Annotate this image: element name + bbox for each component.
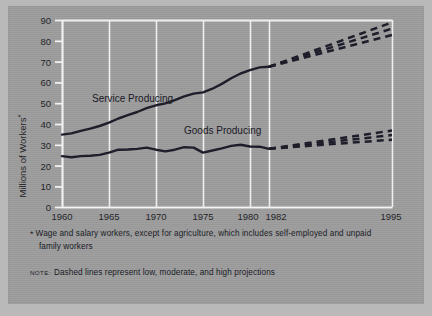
projection-service-high <box>269 22 392 66</box>
x-tick-label: 1970 <box>145 211 166 222</box>
y-tick-labels: 90 80 70 60 50 40 30 20 10 0 <box>40 15 51 213</box>
y-tick-label: 20 <box>40 161 51 172</box>
projection-group-service-producing <box>269 22 392 66</box>
line-chart-svg: 90 80 70 60 50 40 30 20 10 0 Millions of… <box>8 6 424 304</box>
y-tick-label: 50 <box>40 98 51 109</box>
y-axis-title-main: Millions of Workers <box>17 117 28 197</box>
x-tick-label: 1980 <box>237 211 258 222</box>
footnote-note-text: Dashed lines represent low, moderate, an… <box>54 268 275 277</box>
chart-plot-area: 90 80 70 60 50 40 30 20 10 0 Millions of… <box>8 6 424 304</box>
series-line-goods-producing <box>62 145 269 158</box>
y-tick-label: 70 <box>40 57 51 68</box>
projection-group-goods-producing <box>269 131 392 149</box>
figure-panel: 90 80 70 60 50 40 30 20 10 0 Millions of… <box>8 6 424 304</box>
footnote-note-keyword: NOTE: <box>30 269 51 276</box>
y-tick-label: 90 <box>40 15 51 26</box>
x-tick-labels: 1960 1965 1970 1975 1980 1982 1995 <box>51 211 401 222</box>
footnote-asterisk-marker: * <box>30 229 34 239</box>
x-tick-label: 1982 <box>265 211 286 222</box>
footnote-asterisk-line1: Wage and salary workers, except for agri… <box>36 229 372 238</box>
projection-service-moderate <box>269 29 392 67</box>
y-tick-label: 40 <box>40 119 51 130</box>
y-axis-title-text: Millions of Workers* <box>16 114 28 197</box>
x-tick-label: 1960 <box>51 211 72 222</box>
footnote-note: NOTE:Dashed lines represent low, moderat… <box>30 268 420 277</box>
y-tick-label: 0 <box>46 202 51 213</box>
series-label-service-producing: Service Producing <box>92 93 173 104</box>
series-label-goods-producing: Goods Producing <box>184 125 261 136</box>
y-tick-label: 80 <box>40 36 51 47</box>
projection-service-low <box>269 35 392 67</box>
y-tick-label: 60 <box>40 77 51 88</box>
y-axis-title-superscript: * <box>16 114 25 117</box>
y-tick-label: 10 <box>40 181 51 192</box>
x-tick-label: 1995 <box>380 211 401 222</box>
x-tick-label: 1965 <box>98 211 119 222</box>
y-tick-label: 30 <box>40 140 51 151</box>
x-tick-label: 1975 <box>192 211 213 222</box>
footnote-asterisk: *Wage and salary workers, except for agr… <box>30 228 420 253</box>
y-axis-title: Millions of Workers* <box>16 114 28 197</box>
footnote-asterisk-line2: family workers <box>39 241 420 254</box>
y-tick-marks <box>55 21 62 208</box>
